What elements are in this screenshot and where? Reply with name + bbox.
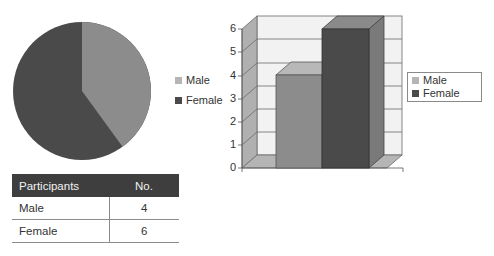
column-header-no: No. [109,174,179,197]
y-tick-label: 2 [224,115,236,127]
cell-no: 6 [109,220,179,243]
cell-no: 4 [109,197,179,220]
bar-legend-label: Male [423,74,447,86]
cell-participants: Female [12,220,109,243]
bar-legend: Male Female [407,72,482,102]
bar-legend-item-female: Female [412,87,460,99]
table-row: Male 4 [12,197,179,220]
bar-legend-label: Female [423,87,460,99]
bar-female [322,16,384,168]
table-header-row: Participants No. [12,174,179,197]
bar-legend-item-male: Male [412,74,447,86]
table-row: Female 6 [12,220,179,243]
y-tick-label: 6 [224,22,236,34]
y-tick-label: 4 [224,69,236,81]
participants-table: Participants No. Male 4 Female 6 [12,174,179,243]
y-tick-label: 5 [224,45,236,57]
y-tick-label: 0 [224,161,236,173]
cell-participants: Male [12,197,109,220]
male-swatch-icon [412,77,419,84]
y-tick-label: 1 [224,138,236,150]
column-header-participants: Participants [12,174,109,197]
female-swatch-icon [412,90,419,97]
y-tick-label: 3 [224,92,236,104]
